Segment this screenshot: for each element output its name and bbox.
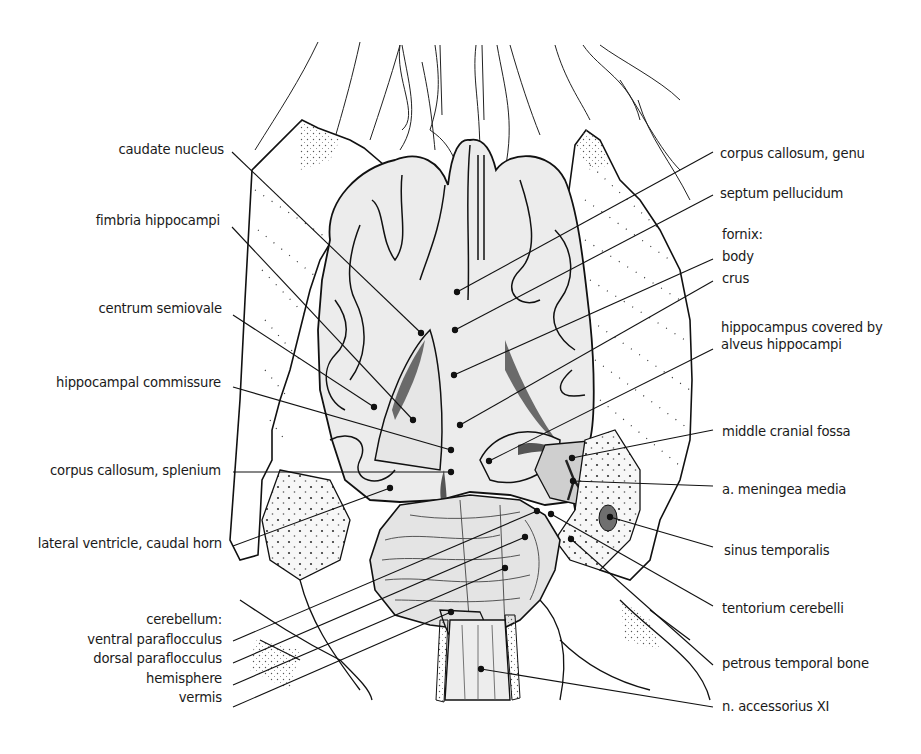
label-fornix-crus: crus: [722, 270, 749, 287]
leader-dot-middle-cranial-fossa: [569, 455, 574, 460]
label-fimbria-hippocampi: fimbria hippocampi: [96, 212, 220, 229]
leader-dot-a-meningea-media: [570, 478, 575, 483]
label-sinus-temporalis: sinus temporalis: [724, 542, 829, 559]
label-hippocampal-commissure: hippocampal commissure: [56, 374, 221, 391]
leader-dot-sinus-temporalis: [607, 514, 612, 519]
leader-dot-fornix-body: [451, 372, 456, 377]
label-hippocampus-covered-by-alveus-hippocampi: hippocampus covered by alveus hippocampi: [721, 319, 883, 353]
label-n-accessorius-xi: n. accessorius XI: [722, 698, 829, 715]
leader-dot-corpus-callosum-splenium: [448, 469, 453, 474]
label-dorsal-paraflocculus: dorsal paraflocculus: [87, 649, 222, 669]
label-corpus-callosum-genu: corpus callosum, genu: [720, 145, 865, 162]
label-corpus-callosum-splenium: corpus callosum, splenium: [50, 462, 221, 479]
leader-dot-centrum-semiovale: [371, 404, 376, 409]
label-a-meningea-media: a. meningea media: [722, 481, 846, 498]
leader-dot-petrous-temporal-bone: [568, 536, 573, 541]
leader-dot-tentorium-cerebelli: [548, 511, 553, 516]
label-lateral-ventricle-caudal-horn: lateral ventricle, caudal horn: [38, 535, 222, 552]
leader-dot-hemisphere: [502, 565, 507, 570]
label-caudate-nucleus: caudate nucleus: [118, 141, 224, 158]
leader-dot-vermis: [448, 609, 453, 614]
leader-dot-dorsal-paraflocculus: [522, 534, 527, 539]
label-vermis: vermis: [87, 688, 222, 708]
leader-dot-n-accessorius-xi: [478, 666, 483, 671]
leader-dot-fimbria-hippocampi: [410, 417, 415, 422]
label-hemisphere: hemisphere: [87, 669, 222, 689]
label-fornix-body: body: [722, 248, 754, 265]
leader-dot-corpus-callosum-genu: [454, 289, 459, 294]
leader-dot-hippocampal-commissure: [448, 447, 453, 452]
label-centrum-semiovale: centrum semiovale: [98, 300, 222, 317]
leader-dot-septum-pellucidum: [452, 327, 457, 332]
label-septum-pellucidum: septum pellucidum: [720, 185, 843, 202]
label-ventral-paraflocculus: ventral paraflocculus: [87, 630, 222, 650]
leader-dot-lateral-ventricle-caudal-horn: [387, 485, 392, 490]
cerebellum-label-group: cerebellum: ventral paraflocculus dorsal…: [87, 610, 222, 708]
leader-dot-fornix-crus: [457, 422, 462, 427]
label-tentorium-cerebelli: tentorium cerebelli: [722, 600, 844, 617]
label-middle-cranial-fossa: middle cranial fossa: [722, 423, 850, 440]
leader-dot-ventral-paraflocculus: [534, 508, 539, 513]
label-fornix-heading: fornix:: [722, 226, 763, 243]
label-cerebellum-heading: cerebellum:: [87, 610, 222, 630]
leader-dot-caudate-nucleus: [418, 330, 423, 335]
label-petrous-temporal-bone: petrous temporal bone: [722, 655, 869, 672]
leader-dot-hippocampus-covered-by-alveus-hippocampi: [486, 458, 491, 463]
